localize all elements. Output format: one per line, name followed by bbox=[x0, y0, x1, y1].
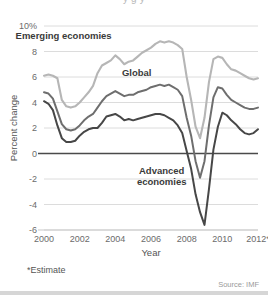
y-axis-tick-labels: 10%86420-2-4-6 bbox=[19, 21, 37, 235]
annotation-label-2: Advanced bbox=[139, 165, 185, 176]
y-tick-label-6: -2 bbox=[29, 174, 37, 184]
x-tick-label-0: 2000 bbox=[34, 234, 54, 244]
line-chart-svg: 10%86420-2-4-6 2000200220042006200820102… bbox=[0, 0, 268, 295]
x-tick-label-1: 2002 bbox=[70, 234, 90, 244]
x-axis-title: Year bbox=[141, 247, 160, 258]
x-tick-label-3: 2006 bbox=[141, 234, 161, 244]
y-axis-title: Percent change bbox=[8, 95, 19, 162]
chart-figure: y g y 10%86420-2-4-6 2000200220042006200… bbox=[0, 0, 268, 295]
x-axis-tick-labels: 2000200220042006200820102012* bbox=[34, 234, 268, 244]
y-tick-label-3: 4 bbox=[32, 98, 37, 108]
annotation-label-1: Global bbox=[122, 67, 152, 78]
y-tick-label-7: -4 bbox=[29, 200, 37, 210]
x-tick-label-4: 2008 bbox=[177, 234, 197, 244]
annotation-label-3: economies bbox=[137, 176, 187, 187]
series-line-advanced-economies bbox=[44, 101, 258, 225]
series-annotations-group: Emerging economiesGlobalAdvancedeconomie… bbox=[16, 30, 187, 188]
annotation-label-0: Emerging economies bbox=[16, 30, 112, 41]
x-tick-label-6: 2012* bbox=[246, 234, 268, 244]
bottom-rule bbox=[0, 291, 268, 295]
x-tick-label-2: 2004 bbox=[105, 234, 125, 244]
series-line-emerging-economies bbox=[44, 41, 258, 138]
source-credit: Source: IMF bbox=[218, 280, 259, 289]
estimate-footnote: *Estimate bbox=[27, 265, 66, 275]
y-tick-label-1: 8 bbox=[32, 47, 37, 57]
series-line-global bbox=[44, 85, 258, 178]
y-tick-label-2: 6 bbox=[32, 72, 37, 82]
x-tick-label-5: 2010 bbox=[212, 234, 232, 244]
y-tick-label-4: 2 bbox=[32, 123, 37, 133]
y-tick-label-5: 0 bbox=[32, 149, 37, 159]
